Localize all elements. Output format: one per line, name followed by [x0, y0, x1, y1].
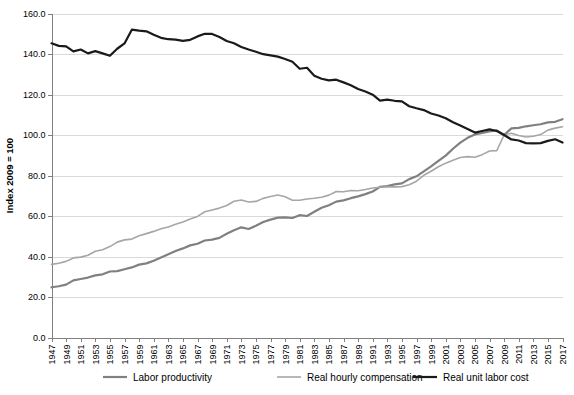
x-tick-label: 1953 — [91, 345, 101, 365]
legend-label-real-unit-labor-cost[interactable]: Real unit labor cost — [443, 372, 529, 383]
y-tick-label: 80.0 — [28, 171, 46, 181]
x-tick-label: 1985 — [324, 345, 334, 365]
x-tick-label: 2015 — [543, 345, 553, 365]
x-tick-label: 1977 — [266, 345, 276, 365]
x-tick-label: 1979 — [281, 345, 291, 365]
chart-legend: Labor productivityReal hourly compensati… — [103, 372, 529, 383]
x-axis-tick-labels: 1947194919511953195519571959196119631965… — [47, 338, 568, 365]
x-tick-label: 2011 — [514, 345, 524, 364]
legend-label-real-hourly-compensation[interactable]: Real hourly compensation — [307, 372, 423, 383]
y-tick-label: 0.0 — [33, 333, 46, 343]
x-tick-label: 1993 — [383, 345, 393, 365]
x-tick-label: 1971 — [222, 345, 232, 365]
x-tick-label: 2003 — [456, 345, 466, 365]
y-tick-label: 40.0 — [28, 252, 46, 262]
x-tick-label: 1949 — [62, 345, 72, 365]
x-tick-label: 2009 — [500, 345, 510, 365]
x-tick-label: 1981 — [295, 345, 305, 365]
y-axis-tick-labels: 0.020.040.060.080.0100.0120.0140.0160.0 — [23, 9, 46, 343]
x-tick-label: 1969 — [208, 345, 218, 365]
legend-label-labor-productivity[interactable]: Labor productivity — [133, 372, 212, 383]
y-tick-label: 120.0 — [23, 90, 46, 100]
y-tick-label: 100.0 — [23, 130, 46, 140]
y-tick-label: 60.0 — [28, 211, 46, 221]
x-tick-label: 2017 — [558, 345, 568, 365]
y-tick-label: 140.0 — [23, 49, 46, 59]
series-group — [52, 30, 563, 288]
x-tick-label: 1989 — [354, 345, 364, 365]
x-tick-label: 1967 — [193, 345, 203, 365]
x-tick-label: 1959 — [135, 345, 145, 365]
x-tick-label: 1987 — [339, 345, 349, 365]
x-tick-label: 1975 — [251, 345, 261, 365]
x-tick-label: 1951 — [76, 345, 86, 365]
x-tick-label: 1965 — [178, 345, 188, 365]
x-tick-label: 1999 — [427, 345, 437, 365]
chart-container: 0.020.040.060.080.0100.0120.0140.0160.0 … — [0, 0, 574, 395]
line-chart: 0.020.040.060.080.0100.0120.0140.0160.0 … — [0, 0, 574, 395]
x-tick-label: 1957 — [120, 345, 130, 365]
gridlines-group — [52, 14, 563, 298]
series-line-real-hourly-compensation — [52, 127, 563, 265]
x-tick-label: 1955 — [105, 345, 115, 365]
series-line-labor-productivity — [52, 119, 563, 287]
series-line-real-unit-labor-cost — [52, 30, 563, 144]
x-tick-label: 1991 — [368, 345, 378, 365]
x-tick-label: 2013 — [529, 345, 539, 365]
y-tick-label: 160.0 — [23, 9, 46, 19]
x-tick-label: 1995 — [397, 345, 407, 365]
y-axis-title: Index 2009 = 100 — [4, 138, 15, 213]
x-tick-label: 1947 — [47, 345, 57, 365]
x-tick-label: 2005 — [470, 345, 480, 365]
x-tick-label: 1973 — [237, 345, 247, 365]
x-tick-label: 1963 — [164, 345, 174, 365]
x-tick-label: 2001 — [441, 345, 451, 365]
x-tick-label: 1983 — [310, 345, 320, 365]
x-tick-label: 1997 — [412, 345, 422, 365]
y-tick-label: 20.0 — [28, 292, 46, 302]
x-tick-label: 1961 — [149, 345, 159, 365]
x-tick-label: 2007 — [485, 345, 495, 365]
